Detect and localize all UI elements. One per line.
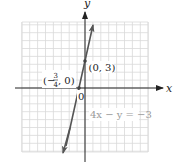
y-axis-label: y [83, 0, 91, 10]
point-y-intercept [83, 59, 87, 63]
origin-label: 0 [77, 90, 84, 102]
graph: x y (− 3 4 , 0) (0, 3) 0 4x − y = −3 [0, 0, 181, 166]
point-y-intercept-label: (0, 3) [88, 61, 115, 73]
equation-label: 4x − y = −3 [89, 108, 152, 121]
point-x-intercept [77, 86, 81, 90]
svg-text:0: 0 [78, 91, 84, 102]
svg-text:(0, 3): (0, 3) [89, 62, 116, 73]
point-x-intercept-label: (− 3 4 , 0) [42, 70, 76, 89]
svg-text:4x − y = −3: 4x − y = −3 [90, 109, 152, 120]
x-axis-label: x [166, 82, 173, 95]
svg-text:, 0): , 0) [58, 75, 75, 86]
